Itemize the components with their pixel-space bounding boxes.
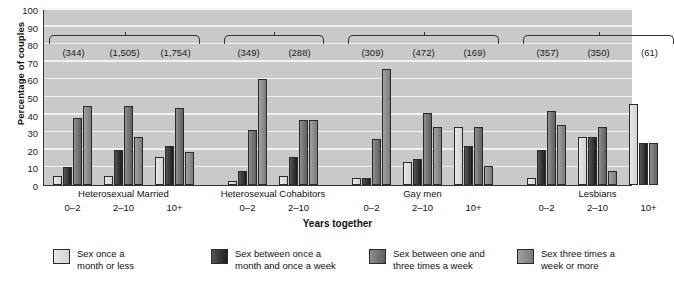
bar: [382, 69, 391, 185]
bar: [423, 113, 432, 185]
y-tick-label: 80: [12, 40, 38, 51]
bar: [403, 162, 412, 185]
y-tick-label: 40: [12, 110, 38, 121]
bar: [228, 181, 237, 185]
bar: [629, 104, 638, 185]
bar: [309, 120, 318, 185]
bar: [175, 108, 184, 185]
bar: [134, 137, 143, 185]
bar: [114, 150, 123, 185]
bar-cluster: [352, 10, 393, 185]
bar: [474, 127, 483, 185]
bar-cluster: [629, 10, 670, 185]
legend-item[interactable]: Sex once a month or less: [53, 248, 134, 271]
x-axis: Years together Heterosexual MarriedHeter…: [43, 186, 632, 236]
x-tick-label: 2–10: [412, 202, 433, 213]
bar: [185, 152, 194, 185]
group-label: Lesbians: [578, 188, 616, 199]
y-tick-label: 60: [12, 75, 38, 86]
legend-item[interactable]: Sex between once a month and once a week: [211, 248, 336, 271]
group-label: Heterosexual Married: [78, 188, 169, 199]
bar: [608, 171, 617, 185]
y-tick-label: 10: [12, 163, 38, 174]
x-tick-label: 2–10: [288, 202, 309, 213]
bar: [352, 178, 361, 185]
bar: [413, 159, 422, 185]
group-label: Gay men: [403, 188, 442, 199]
y-tick-label: 50: [12, 93, 38, 104]
bar: [588, 137, 597, 185]
legend-label: Sex three times a week or more: [541, 248, 615, 271]
legend-swatch: [53, 249, 70, 264]
bar: [248, 130, 257, 185]
legend-swatch: [211, 249, 228, 264]
legend-label: Sex between one and three times a week: [393, 248, 485, 271]
bar: [454, 127, 463, 185]
bar: [578, 137, 587, 185]
bar: [73, 118, 82, 185]
bar: [362, 178, 371, 185]
bar: [299, 120, 308, 185]
y-tick-label: 20: [12, 145, 38, 156]
x-tick-label: 0–2: [240, 202, 256, 213]
x-tick-label: 10+: [166, 202, 182, 213]
legend-label: Sex between once a month and once a week: [235, 248, 336, 271]
bar: [238, 171, 247, 185]
bar: [258, 79, 267, 185]
plot-area: (344)(1,505)(1,754)(349)(288)(309)(472)(…: [43, 10, 632, 186]
bar: [547, 111, 556, 185]
bar: [63, 167, 72, 185]
bar: [433, 127, 442, 185]
bar-cluster: [228, 10, 269, 185]
bar: [104, 176, 113, 185]
x-tick-label: 10+: [640, 202, 656, 213]
y-axis-ticks: 1009080706050403020100: [8, 0, 38, 292]
bar: [649, 143, 658, 185]
x-tick-label: 2–10: [587, 202, 608, 213]
chart-legend: Sex once a month or lessSex between once…: [43, 248, 637, 288]
y-tick-label: 100: [12, 5, 38, 16]
bar: [484, 166, 493, 185]
legend-item[interactable]: Sex three times a week or more: [517, 248, 615, 271]
bar-cluster: [578, 10, 619, 185]
bar: [639, 143, 648, 185]
x-tick-label: 0–2: [65, 202, 81, 213]
bar-cluster: [403, 10, 444, 185]
bar: [372, 139, 381, 185]
legend-label: Sex once a month or less: [77, 248, 134, 271]
bar-cluster: [53, 10, 94, 185]
bar: [279, 176, 288, 185]
group-label: Heterosexual Cohabitors: [221, 188, 326, 199]
y-tick-label: 30: [12, 128, 38, 139]
x-axis-title: Years together: [43, 218, 632, 229]
legend-item[interactable]: Sex between one and three times a week: [369, 248, 485, 271]
bar-cluster: [527, 10, 568, 185]
x-tick-label: 0–2: [364, 202, 380, 213]
bar-cluster: [454, 10, 495, 185]
bar: [527, 178, 536, 185]
x-tick-label: 10+: [465, 202, 481, 213]
bar: [598, 127, 607, 185]
x-tick-label: 2–10: [113, 202, 134, 213]
y-tick-label: 0: [12, 181, 38, 192]
bar: [53, 176, 62, 185]
bar: [537, 150, 546, 185]
bar: [557, 125, 566, 185]
bar: [155, 157, 164, 185]
bar: [289, 157, 298, 185]
y-tick-label: 90: [12, 22, 38, 33]
bar: [124, 106, 133, 185]
bar: [83, 106, 92, 185]
x-tick-label: 0–2: [539, 202, 555, 213]
gridline: [44, 8, 632, 9]
bar-cluster: [104, 10, 145, 185]
y-tick-label: 70: [12, 57, 38, 68]
bar: [464, 146, 473, 185]
legend-swatch: [369, 249, 386, 264]
bar: [165, 146, 174, 185]
legend-swatch: [517, 249, 534, 264]
bar-cluster: [155, 10, 196, 185]
bar-series-container: [44, 10, 632, 185]
bar-cluster: [279, 10, 320, 185]
